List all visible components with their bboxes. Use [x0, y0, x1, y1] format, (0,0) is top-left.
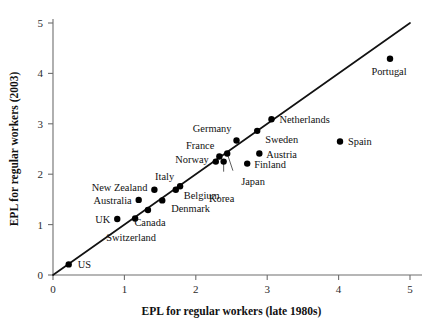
- data-point-spain[interactable]: [337, 138, 343, 144]
- point-label-japan: Japan: [241, 176, 265, 187]
- point-label-us: US: [78, 259, 92, 270]
- x-axis-tick-label: 1: [122, 283, 128, 295]
- x-axis-tick-label: 0: [50, 283, 56, 295]
- y-axis-tick-label: 5: [38, 17, 44, 29]
- y-axis-tick-label: 0: [38, 269, 44, 281]
- chart-svg: 012345012345 USSwitzerlandCanadaDenmarkB…: [0, 0, 434, 330]
- data-point-portugal[interactable]: [387, 56, 393, 62]
- data-point-netherlands[interactable]: [268, 116, 274, 122]
- data-point-denmark[interactable]: [159, 197, 165, 203]
- point-label-canada: Canada: [134, 217, 166, 228]
- point-label-norway: Norway: [175, 154, 209, 165]
- x-axis-tick-label: 2: [193, 283, 199, 295]
- point-label-austria: Austria: [266, 149, 297, 160]
- point-label-spain: Spain: [348, 136, 372, 147]
- data-point-italy[interactable]: [177, 183, 183, 189]
- y-axis-tick-label: 3: [38, 118, 44, 130]
- data-point-korea[interactable]: [220, 158, 226, 164]
- data-point-uk[interactable]: [114, 216, 120, 222]
- data-point-france[interactable]: [216, 153, 222, 159]
- data-point-canada[interactable]: [145, 207, 151, 213]
- scatter-chart-figure: 012345012345 USSwitzerlandCanadaDenmarkB…: [0, 0, 434, 330]
- data-point-australia[interactable]: [135, 197, 141, 203]
- axis-titles-layer: EPL for regular workers (late 1980s)EPL …: [8, 72, 322, 318]
- x-axis-tick-label: 4: [336, 283, 342, 295]
- y-axis-tick-label: 2: [38, 168, 44, 180]
- point-label-netherlands: Netherlands: [279, 114, 329, 125]
- point-label-denmark: Denmark: [171, 203, 210, 214]
- y-axis-tick-label: 1: [38, 219, 44, 231]
- data-point-austria[interactable]: [256, 150, 262, 156]
- data-point-sweden[interactable]: [254, 128, 260, 134]
- data-point-germany[interactable]: [233, 137, 239, 143]
- point-label-new-zealand: New Zealand: [92, 182, 148, 193]
- point-label-italy: Italy: [155, 171, 175, 182]
- point-label-australia: Australia: [94, 195, 132, 206]
- point-label-uk: UK: [95, 214, 111, 225]
- point-label-france: France: [186, 140, 215, 151]
- point-labels-layer: USSwitzerlandCanadaDenmarkBelgiumItalyNe…: [78, 66, 407, 271]
- data-point-new-zealand[interactable]: [151, 187, 157, 193]
- data-point-japan[interactable]: [224, 150, 230, 156]
- data-point-finland[interactable]: [244, 160, 250, 166]
- y-axis-title: EPL for regular workers (2003): [8, 72, 21, 227]
- point-label-switzerland: Switzerland: [106, 232, 156, 243]
- point-label-germany: Germany: [193, 123, 232, 134]
- x-axis-title: EPL for regular workers (late 1980s): [142, 305, 322, 318]
- x-axis-tick-label: 3: [264, 283, 270, 295]
- axes-layer: 012345012345: [38, 17, 423, 295]
- point-label-finland: Finland: [254, 159, 287, 170]
- point-label-korea: Korea: [209, 193, 235, 204]
- point-label-portugal: Portugal: [371, 66, 406, 77]
- y-axis-tick-label: 4: [38, 67, 44, 79]
- x-axis-tick-label: 5: [407, 283, 413, 295]
- data-point-us[interactable]: [66, 261, 72, 267]
- point-label-sweden: Sweden: [265, 134, 299, 145]
